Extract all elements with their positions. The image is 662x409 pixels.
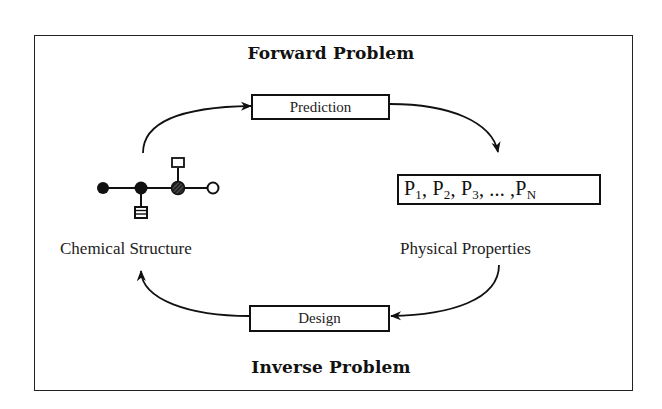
design-label: Design: [298, 310, 341, 327]
property-ellipsis: ...: [489, 178, 505, 201]
chemical-structure-label: Chemical Structure: [60, 239, 192, 259]
forward-problem-heading: Forward Problem: [0, 43, 662, 63]
prediction-box: Prediction: [251, 94, 390, 120]
design-box: Design: [249, 305, 390, 332]
prediction-label: Prediction: [290, 99, 352, 116]
property-p2: P2: [432, 177, 450, 203]
property-pn: PN: [515, 177, 536, 203]
inverse-problem-heading: Inverse Problem: [0, 357, 662, 377]
diagram-frame: [34, 35, 633, 391]
properties-box: P1, P2, P3, ... ,PN: [397, 174, 601, 205]
property-p1: P1: [404, 177, 422, 203]
physical-properties-label: Physical Properties: [400, 239, 531, 259]
property-p3: P3: [461, 177, 479, 203]
